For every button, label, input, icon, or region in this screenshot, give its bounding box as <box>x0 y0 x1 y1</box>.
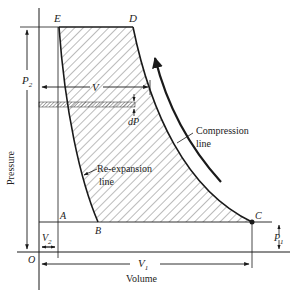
y-axis-label: Pressure <box>5 151 16 185</box>
label-C: C <box>255 210 262 221</box>
label-P2: P2 <box>21 74 33 89</box>
label-D: D <box>128 12 137 24</box>
dp-strip <box>39 102 135 107</box>
label-B: B <box>95 225 101 236</box>
x-axis-label: Volume <box>126 273 157 284</box>
reexpansion-label-1: Re-expansion <box>97 163 152 174</box>
label-A: A <box>59 210 67 221</box>
label-V1: V1 <box>138 257 148 272</box>
label-V2: V2 <box>42 232 52 246</box>
label-P1: P1 <box>273 232 284 246</box>
reexpansion-label-2: line <box>99 176 115 187</box>
compression-label-2: line <box>196 138 212 149</box>
label-O: O <box>28 254 35 265</box>
compression-label-1: Compression <box>196 125 249 136</box>
label-E: E <box>53 12 61 24</box>
label-dP: dP <box>128 116 139 127</box>
pv-diagram: E D A B C O V dP P2 P1 V2 V1 Compression… <box>0 0 300 293</box>
point-c-marker <box>250 220 255 225</box>
